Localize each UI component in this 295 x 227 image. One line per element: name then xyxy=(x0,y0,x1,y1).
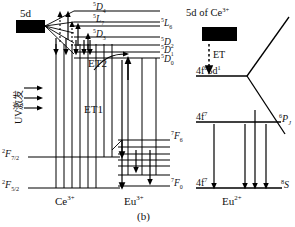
et1-label: ET1 xyxy=(84,104,103,115)
ce-level-label-2f72: 2F7/2 xyxy=(2,149,19,159)
term-letter: D xyxy=(164,54,171,64)
ce-5d-band xyxy=(16,20,45,33)
eu2-term-label-8s: 8S xyxy=(281,180,289,190)
eu3-level-label-5d4: 5D4 xyxy=(93,3,106,13)
eu3-level-label-7f0: 7F0 xyxy=(171,179,183,189)
eu3-level-label-5d3: 5D3 xyxy=(93,30,106,40)
term-letter: D xyxy=(96,2,103,12)
term-letter: S xyxy=(284,179,289,190)
eu2-ion-label: Eu2+ xyxy=(222,196,241,207)
figure-caption: (b) xyxy=(137,211,150,222)
eu2-ground-config-label-lower: 4f7 xyxy=(196,178,207,188)
et1-leader xyxy=(112,140,122,150)
uv-excitation-arrows xyxy=(24,88,40,108)
eu3-emission-verticals xyxy=(128,58,156,175)
eu2-5d-band xyxy=(202,27,237,41)
term-letter: D xyxy=(96,29,103,39)
eu2-ground-config-label-upper: 4f7 xyxy=(196,112,207,122)
diagram-vector-layer xyxy=(0,0,295,227)
eu3-ion-label: Eu3+ xyxy=(124,196,143,207)
eu3-level-label-5l7: 5L7 xyxy=(93,15,104,25)
eu3-level-label-5l6: 5L6 xyxy=(161,19,172,29)
ce-ion-label: Ce3+ xyxy=(55,196,74,207)
uv-excitation-label: UV激发 xyxy=(14,90,24,124)
ce-5d-label: 5d xyxy=(20,8,31,19)
et2-label: ET2 xyxy=(88,58,107,69)
figure-canvas: 5d UV激发 2F7/2 2F5/2 Ce3+ 5D4 5L7 5D3 5L6… xyxy=(0,0,295,227)
ce-level-label-2f52: 2F5/2 xyxy=(2,180,19,190)
eu3-excited-levels xyxy=(74,11,160,58)
eu2-excited-config-label: 4f65d1 xyxy=(196,66,221,76)
et-label: ET xyxy=(213,50,225,60)
ce-source-label: 5d of Ce3+ xyxy=(186,8,229,19)
eu3-7f-manifold xyxy=(118,140,170,186)
eu3-level-label-5d0: 5D0 xyxy=(161,55,174,65)
eu3-level-label-7f6: 7F6 xyxy=(171,132,183,142)
eu2-term-label-6pj: 6PJ xyxy=(279,114,291,124)
